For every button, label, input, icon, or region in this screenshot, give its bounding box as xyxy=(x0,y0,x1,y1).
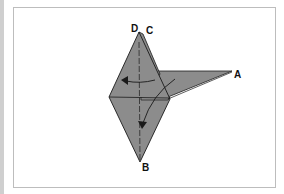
origami-diagram: D C A B xyxy=(0,0,284,194)
label-b: B xyxy=(142,162,149,173)
label-c: C xyxy=(146,25,153,36)
label-d: D xyxy=(131,23,138,34)
label-a: A xyxy=(234,69,241,80)
